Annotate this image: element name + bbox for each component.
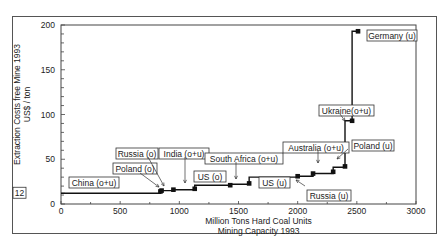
arrow-icon [140,173,159,187]
x-tick-label: 2000 [288,206,307,216]
cost-curve [61,29,360,194]
x-tick-label: 0 [59,206,64,216]
arrow-icon [296,180,305,186]
y-tick-label: 0 [50,199,55,209]
x-tick-label: 1500 [229,206,248,216]
annotation-label: Poland (u) [353,141,392,151]
annotations: China (o+u)Poland (o)Russia (o)India (o+… [69,30,417,201]
data-point-marker [311,171,316,176]
annotation-label: China (o+u) [72,178,117,188]
data-point-marker [331,169,336,174]
y-tick-label: 150 [41,65,55,75]
data-point-marker [171,187,176,192]
x-tick-label: 1000 [170,206,189,216]
x-tick-label: 500 [113,206,127,216]
annotation-label: Poland (o) [115,164,154,174]
annotation-label: US (u) [262,178,287,188]
data-point-marker [228,183,233,188]
annotation-label: Russia (u) [310,191,349,201]
data-point-marker [356,29,361,34]
y-axis-label: Extraction Costs free Mine 1993 [12,44,22,165]
annotation-label: South Africa (o+u) [210,154,278,164]
data-point-marker [159,188,164,193]
y-tick-label: 100 [41,110,55,120]
annotation-label: Ukraine(o+u) [322,106,372,116]
annotation-label: Germany (u) [368,31,416,41]
step-chart: 05001000150020002500300005010015020012Mi… [0,0,442,250]
x-axis-label: Million Tons Hard Coal Units [205,216,312,226]
axes: 05001000150020002500300005010015020012Mi… [12,20,426,236]
data-point-marker [343,164,348,169]
data-point-marker [295,174,300,179]
x-tick-label: 3000 [407,206,426,216]
y-tick-label: 50 [46,154,56,164]
reference-value-label: 12 [15,188,25,198]
data-point-marker [350,118,355,123]
annotation-label: US (o) [198,172,223,182]
y-tick-label: 200 [41,20,55,30]
data-point-marker [247,181,252,186]
x-axis-label-2: Mining Capacity 1993 [218,226,300,236]
y-axis-label-2: US$ / ton [22,87,32,123]
data-point-marker [192,186,197,191]
annotation-label: Australia (o+u) [288,143,344,153]
annotation-label: Russia (o) [118,149,157,159]
x-tick-label: 2500 [347,206,366,216]
annotation-label: India (o+u) [164,149,205,159]
